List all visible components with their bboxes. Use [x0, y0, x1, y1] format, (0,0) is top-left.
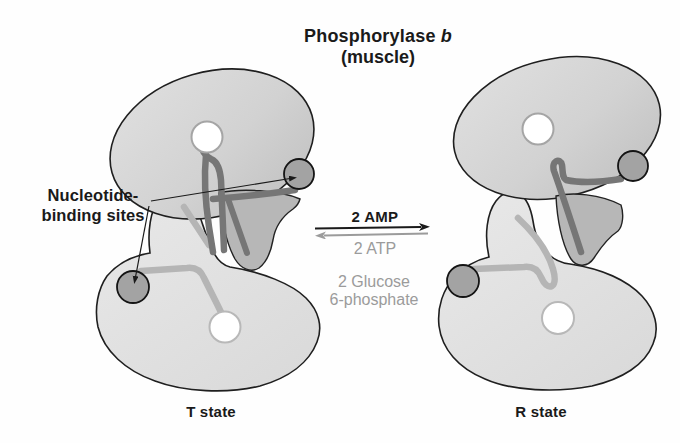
title-name: Phosphorylase: [304, 26, 441, 46]
forward-arrow: [315, 227, 421, 229]
r-state-label: R state: [515, 403, 566, 420]
equilibrium-arrows: [315, 227, 428, 236]
t-state-lower-active-site-hole: [210, 312, 241, 343]
r-state-upper-nucleotide-site: [618, 151, 648, 181]
t-state-label: T state: [186, 403, 236, 420]
title-isoform: b: [441, 26, 452, 46]
r-state-upper-subunit: [439, 37, 675, 219]
t-state-upper-active-site-hole: [192, 122, 223, 153]
reverse-reaction-alt-line2: 6-phosphate: [330, 291, 419, 309]
reverse-arrow: [324, 234, 428, 236]
r-state-lower-active-site-hole: [542, 302, 574, 334]
reverse-reaction-alt-label: 2 Glucose 6-phosphate: [330, 273, 419, 308]
reverse-reaction-alt-line1: 2 Glucose: [330, 273, 419, 291]
figure-phosphorylase-b: Phosphorylase b (muscle) Nucleotide- bin…: [0, 0, 680, 443]
forward-reaction-label: 2 AMP: [352, 208, 399, 225]
figure-subtitle: (muscle): [341, 47, 415, 68]
nucleotide-binding-sites-label: Nucleotide- binding sites: [41, 185, 144, 225]
t-state-lower-nucleotide-site: [117, 271, 149, 303]
nucleotide-binding-sites-label-line1: Nucleotide-: [41, 185, 144, 205]
reverse-reaction-label: 2 ATP: [354, 240, 396, 258]
figure-title: Phosphorylase b: [304, 26, 452, 47]
r-state-dimer: [439, 37, 675, 390]
t-state-upper-nucleotide-site: [284, 159, 314, 189]
r-state-upper-active-site-hole: [523, 114, 554, 145]
nucleotide-binding-sites-label-line2: binding sites: [41, 205, 144, 225]
r-state-lower-nucleotide-site: [447, 265, 479, 297]
